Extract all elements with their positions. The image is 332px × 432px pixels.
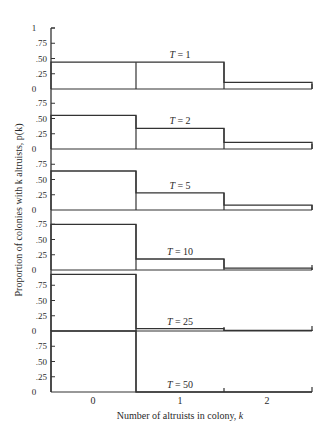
y-tick-label: .25	[36, 311, 48, 321]
y-axis-label: Proportion of colonies with k altruists,…	[13, 123, 25, 296]
y-tick-label: 0	[32, 144, 37, 154]
x-tick-label: 2	[265, 395, 270, 406]
panel-label: T = 50	[167, 379, 193, 390]
y-tick-label: .75	[36, 341, 48, 351]
y-tick-label: 0	[32, 387, 37, 397]
panel-t10: 0.25.50.75T = 10	[32, 219, 312, 275]
panel-t50: 0.25.50.75T = 50	[32, 331, 312, 397]
y-tick-label: .75	[36, 159, 48, 169]
panel-t2: 0.25.50.75T = 2	[32, 98, 312, 154]
panel-t1: 0.25.50.751T = 1	[32, 23, 312, 94]
panel-label: T = 2	[169, 115, 190, 126]
panel-t5: 0.25.50.75T = 5	[32, 159, 312, 215]
panel-label: T = 1	[169, 49, 190, 60]
y-tick-label: .75	[36, 38, 48, 48]
y-tick-label: .50	[36, 296, 48, 306]
y-tick-label: .50	[36, 54, 48, 64]
x-tick-label: 1	[178, 395, 183, 406]
panel-label: T = 25	[167, 316, 193, 327]
y-tick-label: .25	[36, 129, 48, 139]
y-tick-label: 1	[32, 23, 37, 33]
y-tick-label: .25	[36, 69, 48, 79]
y-tick-label: .75	[36, 98, 48, 108]
chart-canvas: 0.25.50.751T = 10.25.50.75T = 20.25.50.7…	[0, 0, 332, 432]
y-tick-label: .25	[36, 190, 48, 200]
y-tick-label: .50	[36, 357, 48, 367]
y-tick-label: 0	[32, 205, 37, 215]
panel-t25: 0.25.50.75T = 25	[32, 274, 312, 336]
x-tick-label: 0	[91, 395, 96, 406]
y-tick-label: .75	[36, 219, 48, 229]
y-tick-label: .50	[36, 235, 48, 245]
y-tick-label: .25	[36, 372, 48, 382]
y-tick-label: 0	[32, 265, 37, 275]
panel-label: T = 5	[169, 180, 190, 191]
histogram-bars	[51, 62, 312, 89]
y-tick-label: 0	[32, 326, 37, 336]
y-tick-label: 0	[32, 84, 37, 94]
x-axis-label: Number of altruists in colony, k	[117, 410, 244, 421]
y-tick-label: .50	[36, 114, 48, 124]
stacked-histogram-chart: 0.25.50.751T = 10.25.50.75T = 20.25.50.7…	[0, 0, 332, 432]
y-tick-label: .75	[36, 280, 48, 290]
y-tick-label: .50	[36, 175, 48, 185]
panel-label: T = 10	[167, 246, 193, 257]
y-tick-label: .25	[36, 250, 48, 260]
